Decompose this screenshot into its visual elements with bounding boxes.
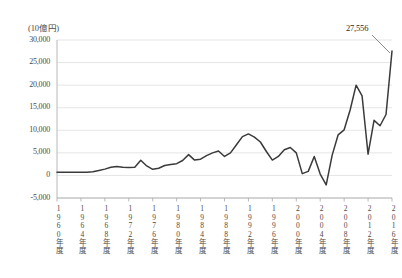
x-tick-label: 2004年度 — [316, 204, 327, 253]
y-tick-label: 30,000 — [10, 35, 50, 44]
peak-value-annotation: 27,556 — [346, 23, 368, 33]
x-tick-label: 1968年度 — [101, 204, 112, 253]
y-tick-label: 15,000 — [10, 102, 50, 111]
x-tick-label: 1988年度 — [221, 204, 232, 253]
x-tick-label: 2016年度 — [388, 204, 399, 253]
annotation-leader-line — [372, 35, 390, 53]
x-tick-label: 1996年度 — [268, 204, 279, 253]
x-tick-label: 2012年度 — [364, 204, 375, 253]
data-series-line — [57, 51, 392, 185]
x-tick-label: 1984年度 — [197, 204, 208, 253]
y-tick-label: 0 — [10, 170, 50, 179]
y-tick-label: 25,000 — [10, 57, 50, 66]
x-tick-label: 1960年度 — [53, 204, 64, 253]
chart-x-tickmarks — [57, 198, 392, 202]
y-tick-label: 10,000 — [10, 125, 50, 134]
chart-container: (10億円) 30,00025,00020,00015,00010,0005,0… — [0, 0, 402, 278]
x-tick-label: 1980年度 — [173, 204, 184, 253]
x-tick-label: 1964年度 — [77, 204, 88, 253]
y-tick-label: 20,000 — [10, 80, 50, 89]
y-tick-label: 5,000 — [10, 147, 50, 156]
chart-gridlines — [57, 40, 392, 198]
x-tick-label: 2008年度 — [340, 204, 351, 253]
x-tick-label: 1992年度 — [244, 204, 255, 253]
x-tick-label: 1972年度 — [125, 204, 136, 253]
y-tick-label: -5,000 — [10, 193, 50, 202]
x-tick-label: 2000年度 — [292, 204, 303, 253]
x-tick-label: 1976年度 — [149, 204, 160, 253]
